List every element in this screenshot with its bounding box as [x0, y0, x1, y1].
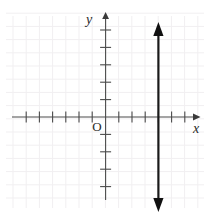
- x-axis-label: x: [192, 121, 200, 136]
- y-axis-label: y: [84, 12, 93, 27]
- origin-label: O: [92, 119, 101, 134]
- graph-canvas: y x O: [0, 0, 208, 220]
- coordinate-plane-figure: y x O: [0, 0, 208, 220]
